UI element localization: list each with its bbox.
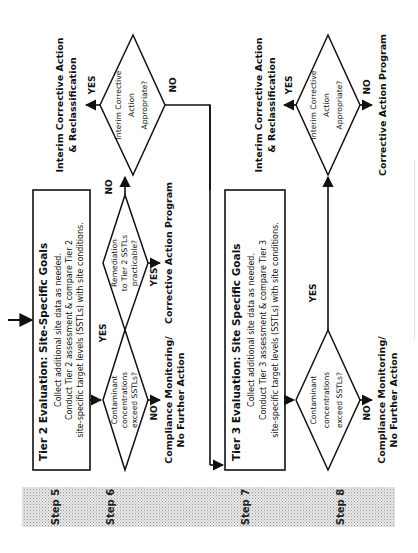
step8-interim-decision: Interim Corrective Action Appropriate? xyxy=(296,35,360,175)
no-label: NO xyxy=(362,79,372,95)
step-6-label: Step 6 xyxy=(105,489,116,525)
tier2-line-3: site-specific target levels (SSTLs) with… xyxy=(76,222,85,437)
decision-text: Contaminant xyxy=(110,375,119,424)
no-label: NO xyxy=(168,77,178,93)
step6-interim-decision: Interim Corrective Action Appropriate? xyxy=(100,35,165,175)
step-7-label: Step 7 xyxy=(240,489,251,525)
outcome-no-further-action: No Further Action xyxy=(388,352,399,447)
no-label: NO xyxy=(104,179,114,195)
tier2-title: Tier 2 Evaluation: Site-Specific Goals xyxy=(37,243,49,461)
outcome-interim-corrective-action: Interim Corrective Action xyxy=(54,37,65,172)
outcome-reclassification: & Reclassification xyxy=(266,57,277,153)
outcome-corrective-action-program: Corrective Action Program xyxy=(163,182,174,324)
yes-label: YES xyxy=(98,323,108,343)
no-label: NO xyxy=(362,405,372,421)
decision-text: exceed SSTLs? xyxy=(335,372,344,428)
yes-label: YES xyxy=(308,283,318,303)
decision-text: Contaminant xyxy=(309,375,318,424)
flowchart-rotated-stage: Step 5 Step 6 Step 7 Step 8 Tier 2 Evalu… xyxy=(0,0,418,553)
tier3-evaluation-box: Tier 3 Evaluation: Site Specific Goals C… xyxy=(225,190,285,470)
decision-text: to Tier 2 SSTLs xyxy=(120,235,129,292)
decision-text: exceed SSTLs? xyxy=(130,372,139,428)
step-5-label: Step 5 xyxy=(50,489,61,525)
yes-label: YES xyxy=(284,75,294,95)
decision-text: Appropriate? xyxy=(335,81,344,130)
decision-text: Action xyxy=(127,93,136,117)
tier2-evaluation-box: Tier 2 Evaluation: Site-Specific Goals C… xyxy=(33,190,90,470)
tier2-line-2: Conduct Tier 2 assessment & compare Tier… xyxy=(65,240,74,420)
tier3-line-1: Collect additional site data as needed. xyxy=(247,253,256,407)
step8-contaminant-decision: Contaminant concentrations exceed SSTLs? xyxy=(296,330,360,470)
yes-label: YES xyxy=(87,75,97,95)
step-8-label: Step 8 xyxy=(335,489,346,525)
outcome-interim-corrective-action: Interim Corrective Action xyxy=(253,37,264,172)
step6-contaminant-decision: Contaminant concentrations exceed SSTLs? xyxy=(103,330,148,470)
tier3-title: Tier 3 Evaluation: Site Specific Goals xyxy=(230,243,242,461)
decision-text: Remediation xyxy=(110,239,119,287)
flowchart: Step 5 Step 6 Step 7 Step 8 Tier 2 Evalu… xyxy=(0,0,418,553)
tier3-line-3: site-specific target levels (SSTLs) with… xyxy=(271,222,280,437)
no-label: NO xyxy=(149,405,159,421)
outcome-corrective-action-program: Corrective Action Program xyxy=(377,34,388,176)
outcome-compliance-monitoring: Compliance Monitoring/ xyxy=(163,336,174,464)
decision-text: Interim Corrective xyxy=(114,70,123,139)
outcome-no-further-action: No Further Action xyxy=(175,352,186,447)
tier3-line-2: Conduct Tier 3 assessment & compare Tier… xyxy=(259,240,268,420)
tier2-line-1: Collect additional site data as needed. xyxy=(54,253,63,407)
outcome-reclassification: & Reclassification xyxy=(67,57,78,153)
decision-text: Appropriate? xyxy=(140,81,149,130)
yes-label: YES xyxy=(149,267,159,287)
decision-text: practicable? xyxy=(130,240,139,286)
connector-to-tier3 xyxy=(165,105,210,190)
decision-text: concentrations xyxy=(120,372,129,429)
decision-text: Interim Corrective xyxy=(309,70,318,139)
decision-text: Action xyxy=(322,93,331,117)
decision-text: concentrations xyxy=(322,372,331,429)
step6-remediation-decision: Remediation to Tier 2 SSTLs practicable? xyxy=(103,195,148,330)
outcome-compliance-monitoring: Compliance Monitoring/ xyxy=(376,336,387,464)
